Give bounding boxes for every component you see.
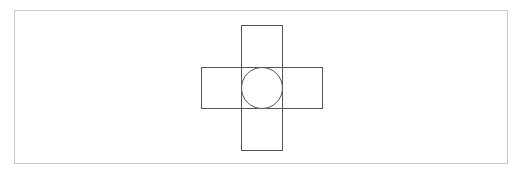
center-circle xyxy=(242,68,283,109)
diagram-canvas xyxy=(0,0,521,172)
